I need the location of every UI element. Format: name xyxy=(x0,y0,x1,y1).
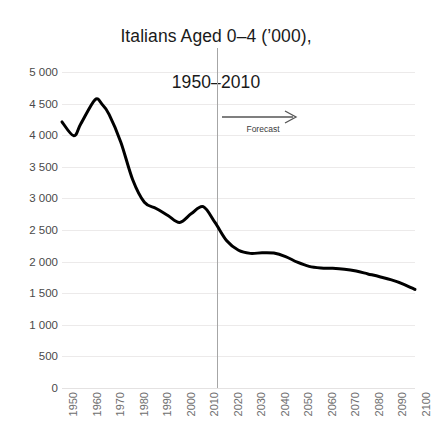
x-axis-tick-label: 2030 xyxy=(255,392,267,416)
forecast-label: Forecast xyxy=(221,124,305,134)
y-axis-tick-label: 3 500 xyxy=(0,161,58,173)
gridline xyxy=(62,167,415,168)
x-axis-tick-label: 2000 xyxy=(185,392,197,416)
y-axis-tick-label: 3 000 xyxy=(0,192,58,204)
y-axis-tick-label: 2 500 xyxy=(0,224,58,236)
y-axis-tick-label: 1 000 xyxy=(0,319,58,331)
y-axis-tick-label: 4 000 xyxy=(0,129,58,141)
x-axis-tick-label: 1950 xyxy=(67,392,79,416)
x-axis-tick-label: 2070 xyxy=(349,392,361,416)
x-axis-tick-label: 2100 xyxy=(420,392,432,416)
x-axis-tick-label: 2040 xyxy=(279,392,291,416)
y-axis-tick-label: 1 500 xyxy=(0,287,58,299)
y-axis-tick-label: 500 xyxy=(0,350,58,362)
gridline xyxy=(62,198,415,199)
chart-title-line-1: Italians Aged 0–4 (’000), xyxy=(120,26,311,46)
x-axis-tick-label: 2060 xyxy=(326,392,338,416)
gridline xyxy=(62,104,415,105)
x-axis-tick-label: 1990 xyxy=(161,392,173,416)
x-axis-tick-label: 2020 xyxy=(232,392,244,416)
gridline xyxy=(62,230,415,231)
x-axis-tick-label: 2090 xyxy=(396,392,408,416)
y-axis-tick-label: 5 000 xyxy=(0,66,58,78)
chart-container: Italians Aged 0–4 (’000), 1950–2010 0500… xyxy=(0,0,432,441)
forecast-divider-line xyxy=(217,48,218,388)
gridline xyxy=(62,293,415,294)
gridline xyxy=(62,262,415,263)
gridline xyxy=(62,388,415,389)
x-axis-tick-label: 2050 xyxy=(302,392,314,416)
y-axis-tick-label: 2 000 xyxy=(0,256,58,268)
x-axis-tick-label: 2080 xyxy=(373,392,385,416)
gridline xyxy=(62,72,415,73)
gridline xyxy=(62,325,415,326)
gridline xyxy=(62,356,415,357)
x-axis-tick-label: 1970 xyxy=(114,392,126,416)
x-axis-tick-label: 1960 xyxy=(91,392,103,416)
y-axis-tick-label: 4 500 xyxy=(0,98,58,110)
y-axis-tick-label: 0 xyxy=(0,382,58,394)
x-axis-tick-label: 1980 xyxy=(138,392,150,416)
gridline xyxy=(62,135,415,136)
x-axis-tick-label: 2010 xyxy=(208,392,220,416)
